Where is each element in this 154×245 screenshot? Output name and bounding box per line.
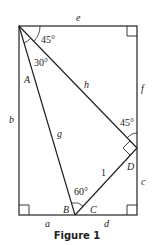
right-angle-top-right [127,26,137,36]
label-D: D [126,161,135,172]
right-angle-bottom-right [127,205,137,215]
label-f: f [141,83,145,94]
angle-at-B: 60° [74,186,88,197]
label-a: a [45,218,50,229]
label-g: g [57,128,62,139]
right-angle-bottom-left [19,205,29,215]
angle-inner: 30° [34,57,48,68]
arc-top-left-45 [34,26,40,41]
label-C: C [90,204,97,215]
angle-top-left: 45° [41,34,55,45]
label-one: 1 [101,167,106,178]
right-angle-at-D [123,141,130,155]
label-d: d [104,218,110,229]
arc-D-45 [127,133,137,138]
label-e: e [76,12,81,23]
label-B: B [63,204,69,215]
label-b: b [9,114,14,125]
angle-at-D: 45° [120,117,134,128]
label-A: A [23,74,31,85]
figure-caption: Figure 1 [0,230,154,241]
label-h: h [84,79,89,90]
figure-diagram: e f b c a d h g A B C D 1 45° 30° 45° 60… [0,0,154,245]
arc-B-60 [72,203,83,206]
arc-inner-30 [24,38,31,43]
label-c: c [141,176,146,187]
